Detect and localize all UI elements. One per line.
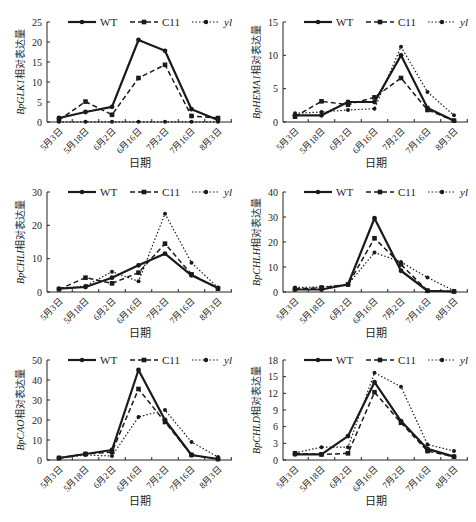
legend-label: WT xyxy=(336,186,353,198)
data-point xyxy=(319,99,324,104)
data-point xyxy=(320,445,324,449)
legend-item-c11: C11 xyxy=(366,354,416,366)
data-point xyxy=(399,385,403,389)
data-point xyxy=(163,48,168,53)
data-point xyxy=(425,446,430,451)
y-tick-label: 30 xyxy=(32,395,42,406)
y-tick-label: 30 xyxy=(32,187,42,198)
legend-item-yl: yl xyxy=(192,354,232,366)
chart-bpchld: 03691215185月3日5月18日6月2日6月16日7月2日7月16日8月3… xyxy=(236,338,474,508)
legend-item-wt: WT xyxy=(304,16,353,28)
y-tick-label: 20 xyxy=(32,37,42,48)
y-tick-label: 25 xyxy=(32,17,42,28)
x-tick-label: 7月16日 xyxy=(168,296,197,325)
y-axis-label: BpCHLH相对表达量 xyxy=(250,198,262,286)
x-axis-label: 日期 xyxy=(365,495,387,507)
data-point xyxy=(110,270,114,274)
series-yl xyxy=(293,45,456,118)
data-point xyxy=(110,281,115,286)
data-point xyxy=(293,113,298,118)
chart-bpchlh: 0102030405月3日5月18日6月2日6月16日7月2日7月16日8月3日… xyxy=(236,170,474,340)
y-axis-label: BpHEMA1相对表达量 xyxy=(250,25,262,119)
data-point xyxy=(163,408,167,412)
y-axis-label: BpCAO相对表达量 xyxy=(14,369,26,450)
data-point xyxy=(319,287,324,292)
data-point xyxy=(136,368,141,373)
legend: WTC11yl xyxy=(68,186,232,198)
y-tick-label: 0 xyxy=(37,117,42,128)
legend-label: C11 xyxy=(162,186,180,198)
y-tick-label: 20 xyxy=(32,220,42,231)
y-tick-label: 20 xyxy=(32,415,42,426)
y-tick-label: 50 xyxy=(32,355,42,366)
data-point xyxy=(83,285,88,290)
data-point xyxy=(189,453,194,458)
x-tick-label: 8月3日 xyxy=(197,464,223,490)
data-point xyxy=(452,118,457,123)
data-point xyxy=(110,448,115,453)
x-tick-label: 5月18日 xyxy=(298,126,327,155)
legend: WTC11yl xyxy=(304,186,468,198)
data-point xyxy=(190,440,194,444)
legend-item-c11: C11 xyxy=(366,16,416,28)
x-tick-label: 5月18日 xyxy=(62,296,91,325)
chart-bpglk1: 05101520255月3日5月18日6月2日6月16日7月2日7月16日8月3… xyxy=(0,0,238,170)
x-tick-label: 8月3日 xyxy=(197,126,223,152)
data-point xyxy=(346,100,351,105)
legend-label: WT xyxy=(100,16,117,28)
legend-label: yl xyxy=(223,16,232,28)
x-tick-label: 6月16日 xyxy=(351,464,380,493)
data-point xyxy=(163,63,168,68)
series-c11 xyxy=(57,387,221,462)
legend: WTC11yl xyxy=(304,354,468,366)
y-tick-label: 3 xyxy=(273,438,278,449)
legend-item-c11: C11 xyxy=(130,16,180,28)
chart-svg: 0102030405月3日5月18日6月2日6月16日7月2日7月16日8月3日… xyxy=(236,170,474,340)
y-tick-label: 10 xyxy=(32,77,42,88)
data-point xyxy=(110,275,115,280)
data-point xyxy=(136,38,141,43)
data-point xyxy=(83,99,88,104)
data-point xyxy=(137,279,141,283)
data-point xyxy=(372,380,377,385)
x-tick-label: 6月16日 xyxy=(115,296,144,325)
x-tick-label: 5月18日 xyxy=(62,126,91,155)
data-point xyxy=(163,212,167,216)
x-axis-label: 日期 xyxy=(129,495,151,507)
x-tick-label: 7月16日 xyxy=(404,126,433,155)
data-point xyxy=(293,287,298,292)
y-tick-label: 10 xyxy=(268,50,278,61)
x-tick-label: 7月16日 xyxy=(168,126,197,155)
axes: 0510155月3日5月18日6月2日6月16日7月2日7月16日8月3日 xyxy=(268,17,468,156)
legend-item-wt: WT xyxy=(304,186,353,198)
data-point xyxy=(57,116,62,121)
x-tick-label: 6月16日 xyxy=(115,126,144,155)
series-yl xyxy=(57,120,220,124)
x-tick-label: 8月3日 xyxy=(433,464,459,490)
legend-item-yl: yl xyxy=(192,186,232,198)
data-point xyxy=(163,251,168,256)
data-point xyxy=(452,454,457,459)
legend-label: yl xyxy=(459,354,468,366)
y-tick-label: 10 xyxy=(268,262,278,273)
figure-grid: 05101520255月3日5月18日6月2日6月16日7月2日7月16日8月3… xyxy=(0,0,476,522)
y-tick-label: 5 xyxy=(37,97,42,108)
legend-label: C11 xyxy=(398,354,416,366)
x-tick-label: 8月3日 xyxy=(433,296,459,322)
data-point xyxy=(163,241,168,246)
data-point xyxy=(57,456,62,461)
legend-label: C11 xyxy=(162,354,180,366)
data-point xyxy=(372,216,377,221)
legend-item-yl: yl xyxy=(428,16,468,28)
series-wt xyxy=(293,216,457,294)
x-tick-label: 6月16日 xyxy=(351,126,380,155)
axes: 01020305月3日5月18日6月2日6月16日7月2日7月16日8月3日 xyxy=(32,187,232,326)
series-c11 xyxy=(293,236,457,294)
data-point xyxy=(83,275,88,280)
data-point xyxy=(110,113,115,118)
chart-svg: 03691215185月3日5月18日6月2日6月16日7月2日7月16日8月3… xyxy=(236,338,474,508)
legend: WTC11yl xyxy=(68,16,232,28)
data-point xyxy=(399,419,404,424)
data-point xyxy=(163,418,168,423)
y-axis-label: BpCHLD相对表达量 xyxy=(250,366,262,454)
